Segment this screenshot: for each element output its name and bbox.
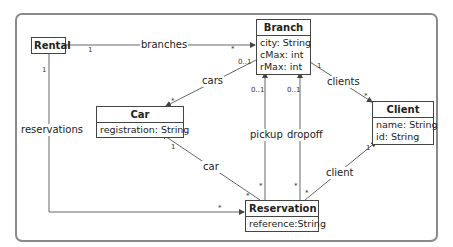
class-attributes: city: String cMax: int rMax: int <box>257 35 310 74</box>
attribute: registration: String <box>100 124 180 136</box>
class-attributes: registration: String <box>97 122 183 137</box>
mult-cars-to: * <box>171 97 175 105</box>
class-attributes: name: String id: String <box>373 117 433 144</box>
class-reservation[interactable]: Reservation reference:String <box>245 200 319 232</box>
label-branches: branches <box>140 39 188 51</box>
label-clients: clients <box>326 76 361 88</box>
label-car: car <box>202 161 220 173</box>
mult-reservations-to: * <box>218 204 222 212</box>
mult-dropoff-to: 0..1 <box>287 86 300 94</box>
mult-client-from: * <box>305 189 309 197</box>
attribute: reference:String <box>249 218 315 230</box>
class-branch[interactable]: Branch city: String cMax: int rMax: int <box>256 19 311 75</box>
attribute: id: String <box>376 131 430 143</box>
class-attributes: reference:String <box>246 216 318 231</box>
mult-car-from: * <box>246 192 250 200</box>
class-name: Car <box>97 107 183 122</box>
attribute: name: String <box>376 119 430 131</box>
mult-branches-from: 1 <box>88 46 92 54</box>
attribute: rMax: int <box>260 61 307 73</box>
class-name: Rental <box>32 38 65 53</box>
label-cars: cars <box>201 75 224 87</box>
mult-car-to: 1 <box>171 143 175 151</box>
class-name: Reservation <box>246 201 318 216</box>
label-client: client <box>325 167 354 179</box>
attribute: city: String <box>260 37 307 49</box>
mult-pickup-to: 0..1 <box>251 86 264 94</box>
mult-client-to: 1 <box>366 144 370 152</box>
class-car[interactable]: Car registration: String <box>96 106 184 138</box>
label-dropoff: dropoff <box>286 129 324 141</box>
mult-cars-from: 0..1 <box>238 58 251 66</box>
class-name: Branch <box>257 20 310 35</box>
label-reservations: reservations <box>20 124 84 136</box>
mult-reservations-from: 1 <box>42 66 46 74</box>
mult-clients-from: 1 <box>317 62 321 70</box>
attribute: cMax: int <box>260 49 307 61</box>
mult-dropoff-from: * <box>294 182 298 190</box>
class-rental[interactable]: Rental <box>31 37 66 54</box>
mult-pickup-from: * <box>259 182 263 190</box>
mult-clients-to: * <box>364 92 368 100</box>
label-pickup: pickup <box>249 129 284 141</box>
class-name: Client <box>373 102 433 117</box>
class-client[interactable]: Client name: String id: String <box>372 101 434 145</box>
mult-branches-to: * <box>231 45 235 53</box>
